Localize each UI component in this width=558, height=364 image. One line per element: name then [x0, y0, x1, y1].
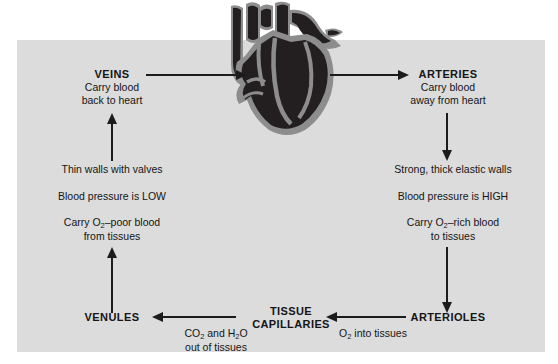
node-arteries-heading: ARTERIES: [396, 68, 500, 81]
node-veins-line1: Carry blood: [62, 81, 162, 94]
arrow-capillaries-to-venules: [152, 311, 236, 323]
arrow-veins-facts-connector: [106, 113, 118, 161]
node-arteries-line2: away from heart: [396, 94, 500, 107]
arrow-head-left-icon: [152, 312, 163, 322]
node-tissue-capillaries-heading-line1: TISSUE: [243, 305, 339, 318]
arrow-shaft: [330, 74, 400, 76]
arrow-shaft: [446, 247, 448, 304]
arrow-shaft: [446, 113, 448, 152]
node-venules-heading: VENULES: [77, 311, 147, 324]
arrow-shaft: [111, 256, 113, 313]
node-arteries-line1: Carry blood: [396, 81, 500, 94]
arrow-head-right-icon: [398, 70, 409, 80]
arrow-shaft: [161, 316, 236, 318]
arrow-arteries-to-arterioles: [441, 247, 453, 313]
arrow-head-up-icon: [107, 113, 117, 124]
vein-fact-2: Blood pressure is LOW: [32, 190, 192, 203]
artery-fact-3-line2: to tissues: [368, 230, 538, 243]
exchange-label-venous-line2: out of tissues: [156, 341, 276, 354]
exchange-label-arterial: O2 into tissues: [318, 327, 428, 341]
node-arteries: ARTERIES Carry blood away from heart: [396, 68, 500, 107]
arrow-arterioles-to-capillaries: [326, 311, 406, 323]
arrow-head-down-icon: [442, 150, 452, 161]
arrow-head-left-icon: [326, 312, 337, 322]
node-arterioles: ARTERIOLES: [410, 311, 486, 324]
vein-fact-3-line2: from tissues: [32, 230, 192, 243]
arrow-head-right-icon: [236, 70, 247, 80]
arrow-shaft: [111, 122, 113, 161]
artery-fact-3-line1: Carry O2–rich blood: [368, 216, 538, 230]
exchange-label-venous: CO2 and H2O out of tissues: [156, 327, 276, 353]
vein-fact-3: Carry O2–poor blood from tissues: [32, 216, 192, 242]
arrow-heart-to-arteries: [330, 69, 409, 81]
arrow-shaft: [335, 316, 406, 318]
arrow-venules-to-veins: [106, 247, 118, 313]
arrow-head-up-icon: [107, 247, 117, 258]
node-veins-line2: back to heart: [62, 94, 162, 107]
artery-fact-3: Carry O2–rich blood to tissues: [368, 216, 538, 242]
arrow-veins-to-heart: [146, 69, 247, 81]
artery-fact-1: Strong, thick elastic walls: [368, 163, 538, 176]
vein-fact-1: Thin walls with valves: [32, 163, 192, 176]
node-arterioles-heading: ARTERIOLES: [410, 311, 486, 324]
node-venules: VENULES: [77, 311, 147, 324]
artery-fact-2: Blood pressure is HIGH: [368, 190, 538, 203]
exchange-label-venous-line1: CO2 and H2O: [156, 327, 276, 341]
arrow-shaft: [146, 74, 238, 76]
arrow-arteries-facts-connector: [441, 113, 453, 161]
vein-fact-3-line1: Carry O2–poor blood: [32, 216, 192, 230]
